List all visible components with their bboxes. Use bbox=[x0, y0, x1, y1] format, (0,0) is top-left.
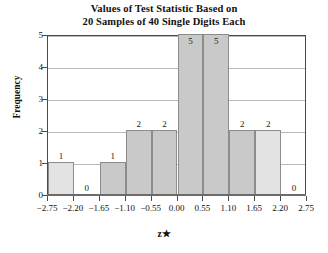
histogram-bin: 5 bbox=[178, 36, 204, 194]
y-axis-tick-mark bbox=[42, 35, 47, 36]
histogram-bar bbox=[203, 34, 229, 194]
histogram-bin: 0 bbox=[74, 36, 100, 194]
histogram-bin: 2 bbox=[255, 36, 281, 194]
histogram-bin: 2 bbox=[126, 36, 152, 194]
histogram-bin: 2 bbox=[229, 36, 255, 194]
chart-title: Values of Test Statistic Based on 20 Sam… bbox=[0, 3, 328, 28]
x-axis-tick-mark bbox=[47, 196, 48, 201]
bar-value-label: 5 bbox=[203, 36, 229, 46]
x-axis-tick-mark bbox=[151, 196, 152, 201]
y-axis-tick-label: 5 bbox=[27, 31, 43, 40]
histogram-bar bbox=[178, 34, 204, 194]
x-axis-tick-mark bbox=[99, 196, 100, 201]
x-axis-tick-mark bbox=[125, 196, 126, 201]
x-axis-tick-mark bbox=[306, 196, 307, 201]
chart-title-line-2: 20 Samples of 40 Single Digits Each bbox=[0, 16, 328, 29]
y-axis-tick-label: 1 bbox=[27, 159, 43, 168]
bar-series: 1012255220 bbox=[48, 36, 305, 194]
x-axis-tick-mark bbox=[254, 196, 255, 201]
bar-value-label: 2 bbox=[152, 119, 178, 129]
bar-value-label: 5 bbox=[178, 36, 204, 46]
y-axis-tick-label: 0 bbox=[27, 191, 43, 200]
histogram-bin: 1 bbox=[48, 36, 74, 194]
y-axis-tick-mark bbox=[42, 131, 47, 132]
histogram-bar bbox=[255, 130, 281, 194]
bar-value-label: 0 bbox=[281, 183, 307, 193]
histogram-bar bbox=[48, 162, 74, 194]
x-axis-tick-mark bbox=[73, 196, 74, 201]
histogram-figure: Values of Test Statistic Based on 20 Sam… bbox=[0, 0, 328, 253]
histogram-bin: 2 bbox=[152, 36, 178, 194]
y-axis-tick-label: 2 bbox=[27, 127, 43, 136]
plot-area: 1012255220 bbox=[47, 35, 306, 195]
bar-value-label: 2 bbox=[255, 119, 281, 129]
y-axis-tick-labels: 012345 bbox=[24, 0, 43, 253]
bar-value-label: 0 bbox=[74, 183, 100, 193]
bar-value-label: 2 bbox=[126, 119, 152, 129]
x-axis-tick-mark bbox=[228, 196, 229, 201]
histogram-bin: 1 bbox=[100, 36, 126, 194]
y-axis-tick-label: 4 bbox=[27, 63, 43, 72]
chart-title-line-1: Values of Test Statistic Based on bbox=[0, 3, 328, 16]
y-axis-tick-label: 3 bbox=[27, 95, 43, 104]
y-axis-tick-mark bbox=[42, 67, 47, 68]
x-axis-tick-mark bbox=[177, 196, 178, 201]
histogram-bar bbox=[126, 130, 152, 194]
histogram-bar bbox=[229, 130, 255, 194]
histogram-bin: 5 bbox=[203, 36, 229, 194]
histogram-bar bbox=[152, 130, 178, 194]
y-axis-tick-mark bbox=[42, 99, 47, 100]
x-axis-tick-mark bbox=[280, 196, 281, 201]
x-axis-label: z★ bbox=[0, 228, 328, 239]
x-axis-tick-mark bbox=[202, 196, 203, 201]
y-axis-tick-mark bbox=[42, 163, 47, 164]
histogram-bin: 0 bbox=[281, 36, 307, 194]
histogram-bar bbox=[100, 162, 126, 194]
x-axis-tick-label: 2.75 bbox=[286, 203, 326, 213]
bar-value-label: 1 bbox=[48, 151, 74, 161]
bar-value-label: 1 bbox=[100, 151, 126, 161]
bar-value-label: 2 bbox=[229, 119, 255, 129]
y-axis-label: Frequency bbox=[12, 62, 22, 132]
